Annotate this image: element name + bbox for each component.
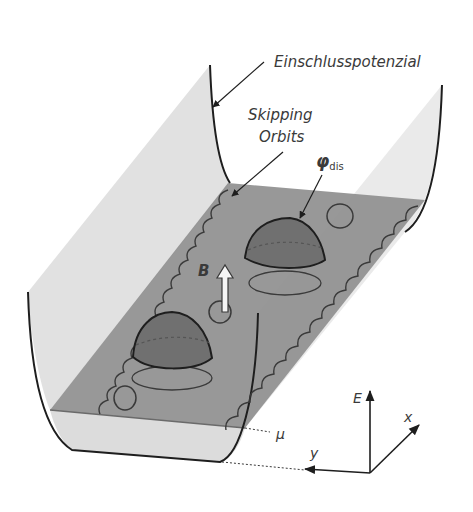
- phi-symbol: φ: [316, 151, 329, 171]
- phi-subscript: dis: [329, 161, 343, 172]
- confinement-label: Einschlusspotenzial: [274, 53, 422, 71]
- x-axis: [370, 425, 419, 473]
- y-axis: [305, 469, 370, 473]
- x-axis-label: x: [403, 409, 413, 425]
- phi-dis-label: φdis: [316, 151, 344, 172]
- skipping-label-line2: Orbits: [259, 128, 305, 146]
- b-field-label: B: [198, 262, 209, 280]
- e-axis-label: E: [353, 390, 362, 406]
- y-axis-label: y: [309, 445, 319, 461]
- mu-label: μ: [275, 426, 285, 442]
- skipping-label-line1: Skipping: [248, 106, 313, 124]
- coordinate-axes: [305, 391, 419, 473]
- confinement-leader: [213, 62, 264, 107]
- mu-dashed-line: [245, 428, 270, 432]
- quantum-hall-channel-diagram: B Einschlusspotenzial Skipping Orbits φd…: [0, 0, 473, 512]
- bottom-dashed-line: [222, 462, 305, 470]
